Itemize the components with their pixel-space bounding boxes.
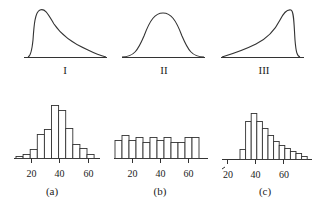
histogram-bar (279, 146, 285, 160)
histogram-bar (285, 149, 291, 160)
histogram-bar (44, 130, 51, 159)
histogram-bar (30, 150, 37, 159)
curve-II-label: II (160, 64, 168, 76)
histogram-bar (136, 138, 143, 159)
hist-b-bars (115, 136, 199, 159)
histogram-bar (157, 141, 164, 159)
curve-III-label: III (259, 64, 270, 76)
histogram-bar (122, 136, 129, 159)
hist-b-tick-label-20: 20 (128, 168, 138, 179)
curve-I-group: I (24, 10, 107, 76)
histogram-bar (52, 106, 59, 159)
curve-III-group: III (221, 10, 304, 76)
histogram-bar (290, 152, 296, 160)
histogram-bar (73, 145, 80, 159)
histogram-b: 20 40 60 (b) (114, 136, 208, 199)
histogram-bar (16, 157, 23, 159)
histogram-bar (268, 136, 274, 160)
histogram-bar (59, 111, 66, 159)
histogram-bar (80, 149, 87, 159)
histogram-c: 20 40 60 (c) (222, 114, 312, 199)
histogram-bar (129, 141, 136, 159)
histogram-bar (164, 138, 171, 159)
histogram-bar (23, 155, 30, 159)
histogram-bar (115, 141, 122, 159)
histogram-bar (302, 157, 308, 160)
histogram-bar (192, 138, 199, 159)
histogram-bar (171, 143, 178, 159)
hist-c-tick-label-20: 20 (223, 169, 233, 180)
hist-b-label: (b) (154, 185, 167, 198)
histogram-bar (262, 129, 268, 160)
histogram-bar (87, 155, 94, 159)
histogram-a: 20 40 60 (a) (14, 106, 100, 199)
histogram-bar (143, 143, 150, 159)
hist-a-tick-label-20: 20 (27, 168, 37, 179)
curve-II (122, 13, 204, 57)
histogram-bar (37, 135, 44, 159)
histogram-bar (257, 122, 263, 160)
hist-a-tick-label-40: 40 (55, 168, 65, 179)
figure: I II III 20 40 60 (a) 20 40 60 (b) (0, 0, 328, 212)
hist-c-label: (c) (259, 185, 272, 198)
histogram-bar (296, 154, 302, 160)
histogram-bar (178, 143, 185, 159)
hist-a-tick-label-60: 60 (84, 168, 94, 179)
curve-I-label: I (63, 64, 67, 76)
hist-c-tick-label-40: 40 (251, 169, 261, 180)
histogram-bar (150, 138, 157, 159)
histogram-bar (66, 129, 73, 159)
hist-a-label: (a) (46, 185, 59, 198)
histogram-bar (274, 142, 280, 160)
hist-c-bars (240, 114, 307, 160)
curve-III (222, 10, 300, 57)
hist-a-bars (16, 106, 94, 159)
curve-II-group: II (122, 13, 205, 76)
curve-I (28, 10, 106, 57)
hist-b-tick-label-40: 40 (156, 168, 166, 179)
histogram-bar (240, 150, 246, 160)
histogram-bar (185, 138, 192, 159)
histogram-bar (251, 114, 257, 160)
histogram-bar (246, 122, 252, 160)
hist-b-tick-label-60: 60 (184, 168, 194, 179)
hist-c-tick-label-60: 60 (279, 169, 289, 180)
